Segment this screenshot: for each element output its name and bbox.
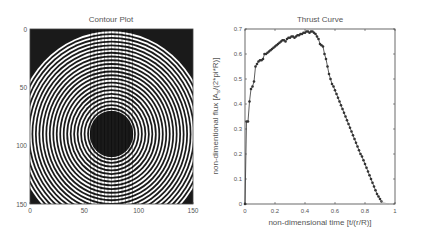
thrust-point	[343, 111, 346, 114]
contour-x-tick-label: 0	[28, 207, 32, 214]
thrust-x-tick-label: 0.4	[301, 208, 310, 214]
thrust-x-tick-label: 0	[243, 208, 247, 214]
thrust-point	[349, 126, 352, 129]
thrust-point	[314, 33, 317, 36]
thrust-point	[346, 119, 349, 122]
contour-y-ticks: 050100150	[16, 26, 27, 208]
thrust-y-tick-label: 0.7	[234, 26, 243, 32]
thrust-point	[350, 130, 353, 133]
thrust-y-tick-label: 0	[239, 201, 243, 207]
contour-y-tick-label: 150	[16, 201, 27, 208]
figure: Contour Plot 050100150 050100150 Thrust …	[0, 0, 426, 243]
thrust-axes-frame	[245, 29, 395, 204]
thrust-point	[338, 100, 341, 103]
thrust-point	[248, 100, 251, 103]
thrust-point	[337, 96, 340, 99]
thrust-point	[352, 134, 355, 137]
thrust-point	[376, 193, 379, 196]
thrust-point	[368, 174, 371, 177]
contour-y-tick-label: 100	[16, 142, 27, 149]
thrust-point	[317, 38, 320, 41]
thrust-point	[341, 108, 344, 111]
thrust-point	[332, 85, 335, 88]
thrust-point	[247, 120, 250, 123]
thrust-title: Thrust Curve	[297, 15, 344, 24]
thrust-point	[328, 73, 331, 76]
contour-x-tick-label: 100	[133, 207, 144, 214]
thrust-y-tick-label: 0.2	[234, 151, 243, 157]
thrust-point	[331, 83, 334, 86]
thrust-point	[244, 203, 247, 206]
contour-x-tick-label: 50	[81, 207, 89, 214]
thrust-point	[253, 80, 256, 83]
contour-plot: Contour Plot 050100150 050100150	[16, 15, 207, 237]
thrust-point	[358, 149, 361, 152]
thrust-x-label: non-dimensional time [t/(r/R)]	[268, 218, 371, 227]
thrust-point	[251, 85, 254, 88]
thrust-point	[370, 178, 373, 181]
thrust-y-tick-label: 0.3	[234, 126, 243, 132]
thrust-y-tick-label: 0.4	[234, 101, 243, 107]
thrust-x-tick-label: 0.6	[331, 208, 340, 214]
thrust-point	[364, 163, 367, 166]
thrust-point	[371, 181, 374, 184]
thrust-x-tick-label: 0.8	[361, 208, 370, 214]
thrust-y-tick-label: 0.1	[234, 176, 243, 182]
thrust-curve-plot: Thrust Curve 00.20.40.60.81 00.10.20.30.…	[211, 15, 397, 227]
thrust-y-label-tail: /(2*pi*R)]	[211, 58, 220, 90]
thrust-point	[367, 170, 370, 173]
thrust-point	[365, 166, 368, 169]
thrust-point	[377, 195, 380, 198]
contour-y-tick-label: 50	[20, 84, 28, 91]
thrust-y-label-main: non-dimentional flux [A	[211, 92, 220, 174]
thrust-point	[254, 65, 257, 68]
thrust-y-tick-label: 0.6	[234, 51, 243, 57]
thrust-point	[374, 189, 377, 192]
thrust-point	[250, 88, 253, 91]
thrust-point	[256, 63, 259, 66]
thrust-point	[326, 65, 329, 68]
thrust-point	[262, 58, 265, 61]
thrust-point	[355, 141, 358, 144]
thrust-point	[322, 45, 325, 48]
thrust-x-tick-label: 1	[393, 208, 397, 214]
thrust-point	[334, 89, 337, 92]
thrust-point	[379, 198, 382, 201]
thrust-point	[323, 53, 326, 56]
thrust-point	[329, 78, 332, 81]
thrust-point	[359, 153, 362, 156]
thrust-x-tick-label: 0.2	[271, 208, 280, 214]
thrust-point	[335, 93, 338, 96]
thrust-point	[353, 138, 356, 141]
thrust-point	[356, 145, 359, 148]
thrust-point	[325, 58, 328, 61]
thrust-point	[316, 35, 319, 38]
thrust-point	[347, 123, 350, 126]
thrust-y-tick-label: 0.5	[234, 76, 243, 82]
contour-x-tick-label: 150	[188, 207, 199, 214]
thrust-point	[284, 40, 287, 43]
thrust-point	[344, 115, 347, 118]
thrust-point	[361, 155, 364, 158]
thrust-y-label: non-dimentional flux [As/(2*pi*R)]	[211, 58, 221, 175]
contour-title: Contour Plot	[89, 15, 134, 24]
thrust-point	[362, 159, 365, 162]
thrust-point	[373, 185, 376, 188]
thrust-point	[340, 104, 343, 107]
contour-y-tick-label: 0	[23, 26, 27, 33]
